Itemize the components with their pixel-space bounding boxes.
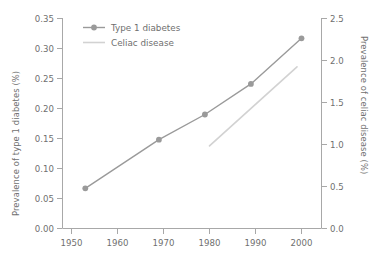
xtick-1990: 1990 <box>236 238 276 248</box>
y-axis-label-left: Prevalence of type 1 diabetes (%) <box>11 71 21 216</box>
series-line-type-1-diabetes <box>85 38 301 188</box>
axis-ticks-right <box>322 19 328 229</box>
data-point <box>248 81 254 87</box>
ytick-left-0.35: 0.35 <box>12 14 54 24</box>
ytick-right-0.5: 0.5 <box>330 182 370 192</box>
data-point <box>82 185 88 191</box>
axis-ticks-left <box>57 19 63 229</box>
legend-label-type-1-diabetes: Type 1 diabetes <box>111 23 180 33</box>
xtick-1950: 1950 <box>52 238 92 248</box>
xtick-1970: 1970 <box>144 238 184 248</box>
ytick-right-2.5: 2.5 <box>330 14 370 24</box>
series-line-celiac-disease <box>210 67 298 146</box>
axis-ticks-x <box>72 229 302 235</box>
ytick-left-0.30: 0.30 <box>12 44 54 54</box>
legend-label-celiac-disease: Celiac disease <box>111 38 174 48</box>
chart-plot-area <box>0 0 377 259</box>
legend-swatch-type-1-diabetes <box>83 25 105 31</box>
xtick-1960: 1960 <box>98 238 138 248</box>
data-point <box>299 35 305 41</box>
chart-figure: 0.35 0.30 0.25 0.20 0.15 0.10 0.05 0.00 … <box>0 0 377 259</box>
y-axis-label-right: Prevalence of celiac disease (%) <box>359 36 369 174</box>
data-point <box>202 112 208 118</box>
xtick-1980: 1980 <box>190 238 230 248</box>
ytick-right-0.0: 0.0 <box>330 224 370 234</box>
ytick-left-0.00: 0.00 <box>12 224 54 234</box>
xtick-2000: 2000 <box>282 238 322 248</box>
data-point <box>156 137 162 143</box>
